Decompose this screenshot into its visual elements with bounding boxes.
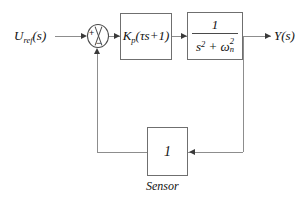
plant-den-omega-subscript: n	[230, 45, 234, 53]
plant-den-omega: ω	[221, 40, 230, 55]
plant-denominator: s2 + ω2n	[192, 34, 238, 53]
input-signal-label: Uref(s)	[14, 29, 46, 44]
controller-block[interactable]: Kp(τs+1)	[120, 13, 172, 60]
arrow-feedback-into-sum-icon	[94, 48, 100, 54]
input-signal-symbol: U	[14, 28, 23, 43]
sensor-block[interactable]: 1	[147, 127, 188, 176]
controller-expression: Kp(τs+1)	[123, 29, 170, 44]
block-diagram-canvas: Uref(s) + − Kp(τs+1) 1 s2 + ω2n Y(s)	[0, 0, 304, 202]
sensor-gain-value: 1	[164, 145, 171, 159]
output-signal-label: Y(s)	[274, 29, 295, 42]
wire-tap-to-sensor	[188, 152, 243, 153]
plant-numerator: 1	[192, 18, 238, 33]
arrow-output-icon	[265, 33, 271, 39]
arrow-into-sensor-icon	[189, 149, 195, 155]
plant-den-plus: +	[209, 40, 218, 55]
sum-minus-sign: −	[96, 39, 101, 48]
wire-input-to-sum	[55, 36, 83, 37]
controller-paren-close: )	[165, 28, 169, 43]
wire-output-tap-down	[243, 36, 244, 152]
plant-den-s-exponent: 2	[201, 39, 205, 49]
wire-sensor-to-feedback-corner	[97, 152, 147, 153]
plant-transfer-function: 1 s2 + ω2n	[192, 18, 238, 53]
input-signal-suffix: (s)	[33, 28, 47, 43]
sum-plus-sign: +	[89, 29, 94, 38]
sensor-caption: Sensor	[146, 180, 179, 192]
plant-den-omega-indices: 2n	[230, 37, 234, 53]
plant-block[interactable]: 1 s2 + ω2n	[187, 12, 243, 60]
input-signal-subscript: ref	[23, 35, 32, 45]
wire-feedback-up-to-sum	[97, 50, 98, 152]
